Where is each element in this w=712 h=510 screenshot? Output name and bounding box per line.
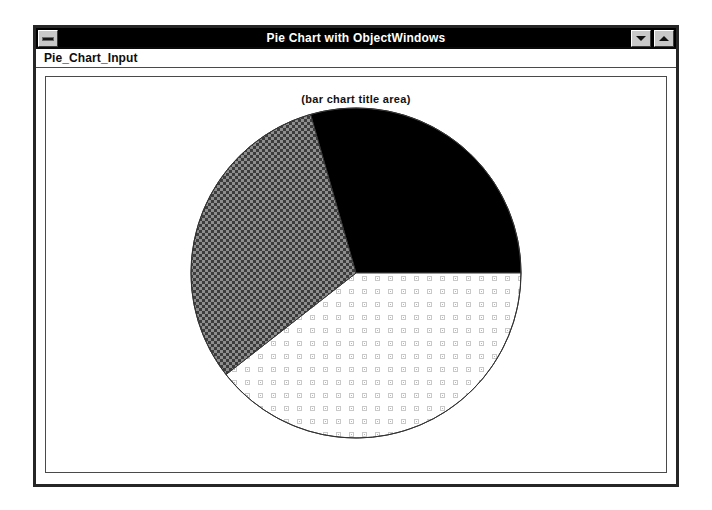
title-bar[interactable]: Pie Chart with ObjectWindows	[36, 28, 676, 49]
client-area: (bar chart title area)	[36, 68, 676, 482]
application-window: Pie Chart with ObjectWindows Pie_Chart_I…	[33, 25, 679, 487]
minimize-triangle-down-icon	[636, 36, 646, 41]
pie-slice-group	[191, 108, 521, 438]
pie-chart	[46, 77, 667, 473]
maximize-button[interactable]	[654, 30, 674, 47]
window-menu-bar-icon	[42, 37, 54, 41]
system-menu-button[interactable]	[38, 30, 58, 47]
menu-bar: Pie_Chart_Input	[36, 49, 676, 68]
menu-item-pie-chart-input[interactable]: Pie_Chart_Input	[44, 51, 138, 65]
minimize-button[interactable]	[631, 30, 651, 47]
maximize-triangle-up-icon	[659, 36, 669, 41]
window-title: Pie Chart with ObjectWindows	[267, 31, 446, 45]
chart-panel: (bar chart title area)	[45, 76, 667, 473]
